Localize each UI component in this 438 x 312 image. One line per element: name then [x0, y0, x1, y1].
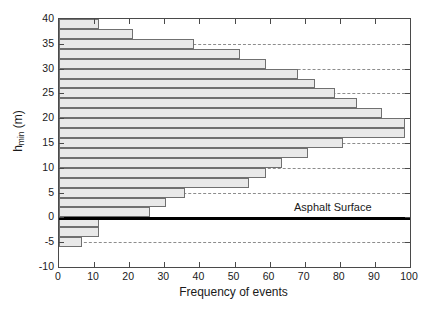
y-axis-tick-label: 35 — [42, 37, 54, 49]
x-axis-tick-label: 10 — [87, 270, 99, 282]
bar — [59, 69, 298, 79]
plot-inner: Asphalt Surface — [59, 19, 410, 267]
x-axis-tick — [305, 262, 306, 267]
y-axis-tick — [405, 242, 410, 243]
x-axis-title: Frequency of events — [58, 285, 409, 299]
x-axis-tick — [94, 262, 95, 267]
y-axis-tick — [405, 93, 410, 94]
bar — [59, 79, 315, 89]
bar — [59, 158, 282, 168]
y-axis-tick — [59, 217, 64, 218]
x-axis-tick — [164, 19, 165, 24]
asphalt-surface-line — [59, 217, 410, 220]
y-axis-tick-label: 30 — [42, 62, 54, 74]
y-axis-tick-labels: -10-50510152025303540 — [26, 18, 54, 266]
y-axis-title: hmin (m) — [11, 71, 25, 191]
y-axis-tick-label: -10 — [39, 260, 54, 272]
y-axis-title-subscript: min — [16, 131, 26, 145]
y-axis-tick — [59, 193, 64, 194]
y-axis-tick — [59, 168, 64, 169]
bar — [59, 88, 335, 98]
bar — [59, 168, 266, 178]
x-axis-tick — [129, 19, 130, 24]
y-axis-tick-label: 0 — [48, 210, 54, 222]
y-axis-title-unit: (m) — [11, 110, 25, 131]
y-axis-tick-label: -5 — [45, 235, 54, 247]
x-axis-tick — [235, 19, 236, 24]
plot-area: Asphalt Surface — [58, 18, 411, 268]
x-axis-tick — [270, 262, 271, 267]
bar — [59, 198, 166, 208]
x-axis-tick-label: 90 — [368, 270, 380, 282]
x-axis-tick-label: 20 — [122, 270, 134, 282]
bar — [59, 128, 405, 138]
y-axis-tick — [405, 193, 410, 194]
x-axis-tick-label: 30 — [157, 270, 169, 282]
y-axis-tick-label: 10 — [42, 161, 54, 173]
bar — [59, 148, 308, 158]
x-axis-tick — [305, 19, 306, 24]
bar — [59, 108, 382, 118]
x-axis-tick — [340, 262, 341, 267]
x-axis-tick — [375, 262, 376, 267]
x-axis-tick-label: 50 — [228, 270, 240, 282]
x-axis-tick — [199, 19, 200, 24]
x-axis-tick — [199, 262, 200, 267]
bar — [59, 207, 150, 217]
asphalt-surface-label: Asphalt Surface — [294, 201, 372, 213]
x-axis-tick — [340, 19, 341, 24]
gridline — [59, 242, 410, 243]
bar — [59, 118, 405, 128]
y-axis-tick-label: 20 — [42, 111, 54, 123]
x-axis-tick-labels: 0102030405060708090100 — [58, 270, 409, 284]
x-axis-tick-label: 0 — [55, 270, 61, 282]
bar — [59, 188, 185, 198]
x-axis-tick-label: 60 — [263, 270, 275, 282]
y-axis-tick — [59, 44, 64, 45]
bar — [59, 29, 133, 39]
y-axis-tick-label: 5 — [48, 186, 54, 198]
y-axis-tick — [405, 118, 410, 119]
x-axis-tick — [164, 262, 165, 267]
x-axis-tick — [235, 262, 236, 267]
y-axis-tick-label: 15 — [42, 136, 54, 148]
x-axis-tick-label: 80 — [333, 270, 345, 282]
y-axis-tick — [59, 93, 64, 94]
bar — [59, 98, 357, 108]
bar — [59, 59, 266, 69]
y-axis-tick-label: 40 — [42, 12, 54, 24]
y-axis-tick — [405, 44, 410, 45]
y-axis-tick — [59, 118, 64, 119]
x-axis-tick-label: 70 — [298, 270, 310, 282]
bar — [59, 178, 249, 188]
y-axis-tick — [405, 168, 410, 169]
x-axis-tick — [94, 19, 95, 24]
y-axis-tick — [59, 143, 64, 144]
chart-figure: -10-50510152025303540 Asphalt Surface 01… — [0, 0, 438, 312]
x-axis-tick — [270, 19, 271, 24]
y-axis-tick — [405, 143, 410, 144]
y-axis-title-base: h — [11, 145, 25, 152]
x-axis-tick-label: 40 — [193, 270, 205, 282]
bar — [59, 49, 240, 59]
y-axis-tick — [59, 69, 64, 70]
y-axis-tick — [59, 242, 64, 243]
x-axis-tick — [129, 262, 130, 267]
y-axis-tick — [405, 217, 410, 218]
bar — [59, 227, 99, 237]
y-axis-tick-label: 25 — [42, 86, 54, 98]
bar — [59, 39, 194, 49]
y-axis-tick — [405, 69, 410, 70]
x-axis-tick — [375, 19, 376, 24]
x-axis-tick-label: 100 — [400, 270, 418, 282]
bar — [59, 138, 343, 148]
